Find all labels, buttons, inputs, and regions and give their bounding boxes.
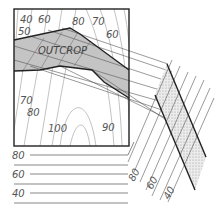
contour-label: 70 bbox=[20, 95, 33, 106]
contour-label: 40 bbox=[20, 14, 33, 25]
elevation-label-40: 40 bbox=[12, 188, 25, 199]
elevation-label-60: 60 bbox=[12, 169, 25, 180]
contour-label: 60 bbox=[106, 29, 119, 40]
section-bed bbox=[155, 64, 206, 190]
contour-label: 80 bbox=[72, 16, 85, 27]
section-label-80: 80 bbox=[126, 167, 142, 183]
contour-label: 90 bbox=[102, 122, 115, 133]
outcrop-diagram: OUTCROP 40 60 50 80 70 60 70 80 100 90 bbox=[0, 0, 219, 215]
outcrop-label: OUTCROP bbox=[38, 45, 88, 56]
contour-label: 80 bbox=[27, 107, 40, 118]
contour-label: 60 bbox=[38, 14, 51, 25]
contour-label: 50 bbox=[18, 26, 31, 37]
horizontal-elevation-lines bbox=[14, 142, 134, 203]
contour-label: 100 bbox=[48, 123, 67, 134]
elevation-label-80: 80 bbox=[12, 150, 25, 161]
contour-label: 70 bbox=[92, 16, 105, 27]
